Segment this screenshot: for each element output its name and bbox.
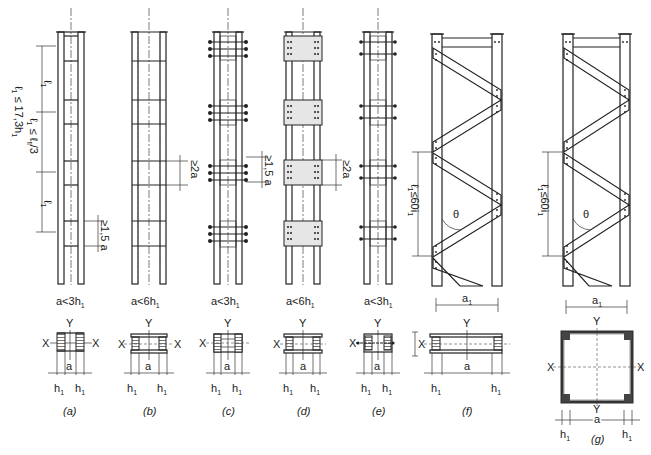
svg-text:X: X bbox=[637, 361, 645, 373]
svg-text:a: a bbox=[224, 360, 231, 372]
panel-c-section: a<3h1 Y X a h1 h1 (c) bbox=[199, 295, 250, 417]
svg-text:a: a bbox=[464, 360, 471, 372]
panel-c-elevation: ≥1,5 a bbox=[208, 8, 275, 285]
svg-text:X: X bbox=[418, 338, 426, 350]
condition-a: a<3h1 bbox=[56, 295, 85, 309]
svg-text:h1: h1 bbox=[283, 382, 293, 396]
svg-text:h1: h1 bbox=[127, 382, 137, 396]
gusset-bolts-g bbox=[565, 41, 628, 269]
svg-text:a: a bbox=[374, 360, 381, 372]
svg-text:a<3h1: a<3h1 bbox=[211, 295, 240, 309]
svg-text:h1: h1 bbox=[431, 382, 441, 396]
svg-text:h1: h1 bbox=[310, 382, 320, 396]
svg-text:h1: h1 bbox=[157, 382, 167, 396]
lacing-bars-g bbox=[564, 48, 629, 286]
svg-text:Y: Y bbox=[463, 317, 471, 329]
svg-text:Y: Y bbox=[66, 317, 74, 329]
svg-text:Y: Y bbox=[299, 317, 307, 329]
theta-g: θ bbox=[583, 208, 589, 220]
panel-f-section: a1 Y X a h1 h1 (f) bbox=[412, 292, 510, 417]
svg-text:a: a bbox=[66, 360, 73, 372]
caption-f: (f) bbox=[462, 405, 473, 417]
svg-text:X: X bbox=[199, 337, 207, 349]
svg-text:h1: h1 bbox=[491, 382, 501, 396]
svg-text:h1: h1 bbox=[560, 428, 570, 442]
svg-text:a1: a1 bbox=[592, 294, 602, 308]
panel-d-section: a<6h1 Y X a h1 h1 (d) bbox=[273, 295, 327, 417]
caption-b: (b) bbox=[143, 405, 157, 417]
svg-text:Y: Y bbox=[593, 315, 601, 327]
svg-text:a1: a1 bbox=[462, 292, 472, 306]
svg-text:≥2a: ≥2a bbox=[341, 160, 353, 179]
caption-c: (c) bbox=[222, 405, 235, 417]
panel-d-elevation: ≥2a bbox=[284, 8, 353, 285]
svg-text:X: X bbox=[547, 361, 555, 373]
panel-a-section: a<3h1 Y X X a h1 h1 (a) bbox=[42, 295, 100, 417]
svg-text:a<3h1: a<3h1 bbox=[364, 295, 393, 309]
panel-a-annotations: ℓ1 ℓ1 ℓ1 ≤ ℓfl/3 ℓ1 ≤ 17,3h1 ≥1,5 a bbox=[11, 80, 111, 251]
panel-b-elevation: ≥2a bbox=[130, 8, 201, 285]
l1-label-bottom: ℓ1 bbox=[40, 200, 54, 208]
svg-text:a<6h1: a<6h1 bbox=[131, 295, 160, 309]
svg-text:X: X bbox=[42, 337, 50, 349]
panel-g-section: a1 Y X X Y a h1 h1 (g) bbox=[547, 294, 645, 445]
ge-1-5a-label-a: ≥1,5 a bbox=[99, 220, 111, 251]
svg-text:≥2a: ≥2a bbox=[189, 160, 201, 179]
l1-le-lfl-3: ℓ1 ≤ ℓfl/3 bbox=[26, 118, 40, 154]
panel-g-elevation: θ ℓ1≤60i1 bbox=[537, 34, 632, 286]
panel-e-section: a<3h1 Y X a h1 h1 (e) bbox=[349, 295, 400, 417]
panel-b-section: a<6h1 Y X X a h1 h1 (b) bbox=[118, 295, 182, 417]
lacing-spacing-f: ℓ1≤60i1 bbox=[407, 184, 421, 216]
panel-a-elevation bbox=[36, 8, 104, 285]
svg-text:h1: h1 bbox=[75, 382, 85, 396]
caption-g: (g) bbox=[591, 433, 605, 445]
svg-text:X: X bbox=[118, 338, 126, 350]
l1-le-17-3h1: ℓ1 ≤ 17,3h1 bbox=[11, 86, 25, 137]
lacing-spacing-g: ℓ1≤60i1 bbox=[537, 184, 551, 216]
svg-text:h1: h1 bbox=[622, 428, 632, 442]
svg-text:≥1,5 a: ≥1,5 a bbox=[263, 155, 275, 186]
svg-text:h1: h1 bbox=[382, 382, 392, 396]
svg-text:X: X bbox=[92, 337, 100, 349]
svg-text:Y: Y bbox=[145, 317, 153, 329]
caption-d: (d) bbox=[297, 405, 311, 417]
panel-e-elevation bbox=[359, 8, 397, 285]
gusset-bolts-f bbox=[434, 41, 500, 269]
svg-text:h1: h1 bbox=[54, 382, 64, 396]
built-up-columns-diagram: ℓ1 ℓ1 ℓ1 ≤ ℓfl/3 ℓ1 ≤ 17,3h1 ≥1,5 a a<3h… bbox=[0, 0, 651, 455]
svg-text:Y: Y bbox=[374, 317, 382, 329]
svg-text:h1: h1 bbox=[211, 382, 221, 396]
svg-text:a: a bbox=[594, 413, 601, 425]
svg-text:X: X bbox=[273, 338, 281, 350]
lacing-bars-f bbox=[433, 48, 501, 286]
svg-text:Y: Y bbox=[224, 317, 232, 329]
svg-text:h1: h1 bbox=[232, 382, 242, 396]
svg-text:X: X bbox=[174, 338, 182, 350]
caption-a: (a) bbox=[63, 405, 77, 417]
theta-f: θ bbox=[453, 208, 459, 220]
svg-text:a<6h1: a<6h1 bbox=[286, 295, 315, 309]
svg-text:h1: h1 bbox=[361, 382, 371, 396]
svg-text:X: X bbox=[349, 337, 357, 349]
svg-text:a: a bbox=[145, 360, 152, 372]
l1-label-top: ℓ1 bbox=[40, 80, 54, 88]
panel-f-elevation: θ ℓ1≤60i1 bbox=[407, 34, 504, 286]
svg-text:a: a bbox=[300, 360, 307, 372]
caption-e: (e) bbox=[372, 405, 386, 417]
